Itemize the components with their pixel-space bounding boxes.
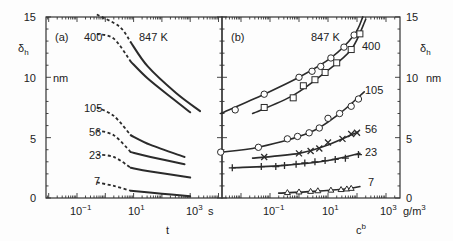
x-unit-b: g/m3 [403,203,426,217]
curve-dashed [97,155,131,168]
y-unit-left: nm [53,72,68,84]
y-tick-15-right: 15 [406,11,418,23]
curve-dashed [97,182,131,190]
curve-solid [131,168,190,178]
y-axis-label-left: δh [18,42,29,57]
series-label-a-105: 105 [84,102,102,114]
x-unit-a: s [208,205,214,217]
series-label-b-23: 23 [365,146,377,158]
x-tick-b-2: 101 [322,203,339,217]
x-tick-b-3: 103 [380,203,397,217]
x-tick-b-1: 10−1 [263,203,285,217]
series-label-a-847: 847 K [139,31,168,43]
x-tick-a-3: 103 [186,203,203,217]
series-label-b-400: 400 [362,40,380,52]
y-tick-0-left: 0 [30,192,36,204]
series-label-b-847: 847 K [311,31,340,43]
y-tick-5-left: 5 [30,133,36,145]
y-tick-5-right: 5 [406,133,412,145]
y-axis-label-right: δh [420,42,431,57]
series-label-a-23: 23 [89,149,101,161]
series-label-a-7: 7 [94,175,100,187]
series-label-a-400: 400 [84,31,102,43]
y-tick-15-left: 15 [24,11,36,23]
x-axis-label-a: t [166,224,169,236]
x-tick-a-2: 101 [128,203,145,217]
panel-b-label: (b) [231,31,244,43]
x-axis-label-b: cb [356,222,367,236]
curve-solid [131,42,200,111]
y-tick-0-right: 0 [406,192,412,204]
y-tick-10-left: 10 [24,72,36,84]
series-label-a-56: 56 [89,126,101,138]
y-tick-10-right: 10 [406,72,418,84]
series-label-b-105: 105 [365,84,383,96]
curve-dashed [97,130,131,152]
panel-b-curves [218,17,366,195]
series-label-b-7: 7 [368,176,374,188]
curve-solid [131,191,190,196]
curve-solid [131,62,190,113]
series-label-b-56: 56 [365,123,377,135]
panel-a-label: (a) [55,31,68,43]
chart-svg: (a) (b) 15 10 5 0 nm δh 15 10 nm 5 0 δh … [0,0,453,241]
chart-figure: (a) (b) 15 10 5 0 nm δh 15 10 nm 5 0 δh … [0,0,453,241]
y-unit-right: nm [426,72,441,84]
x-tick-a-1: 10−1 [70,203,92,217]
